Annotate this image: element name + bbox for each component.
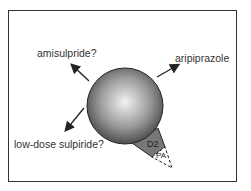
label-sulpiride: low-dose sulpiride? [14,138,104,150]
label-amisulpride: amisulpride? [37,47,97,59]
label-pa: PA [156,151,166,160]
label-d2: D2 [147,139,159,149]
arrow-sulpiride [66,108,84,130]
arrow-amisulpride [72,65,89,81]
diagram-canvas [0,0,251,191]
arrow-aripiprazole [157,65,178,77]
receptor-sphere [87,68,163,144]
label-aripiprazole: aripiprazole [175,52,229,64]
